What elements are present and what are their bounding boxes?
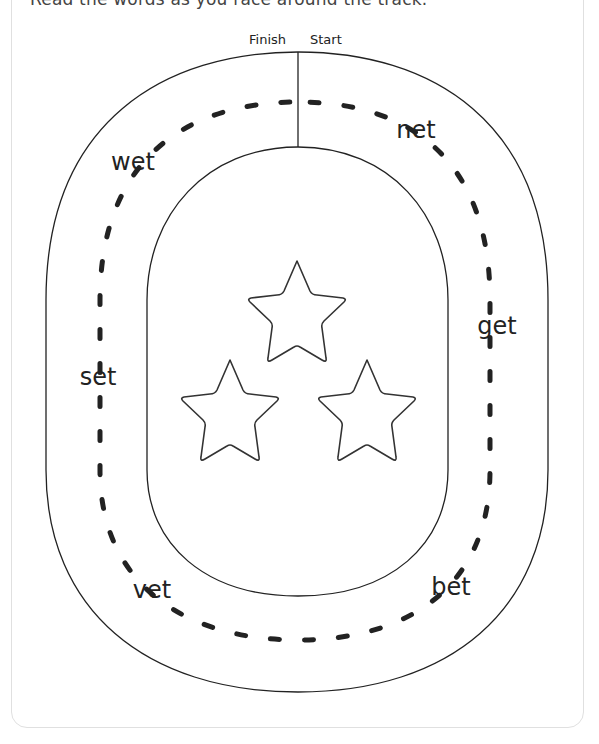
inner-track-edge (147, 147, 448, 596)
track-word: get (477, 312, 516, 340)
track-word: bet (431, 573, 470, 601)
star-icon (249, 261, 346, 361)
track-word: wet (111, 148, 155, 176)
center-dashed-line (100, 102, 490, 640)
track-word: net (396, 116, 435, 144)
star-icon (182, 360, 279, 460)
finish-label: Finish (249, 32, 286, 47)
star-icon (319, 360, 416, 460)
start-label: Start (310, 32, 342, 47)
track-word: set (80, 363, 117, 391)
track-word: vet (133, 576, 171, 604)
